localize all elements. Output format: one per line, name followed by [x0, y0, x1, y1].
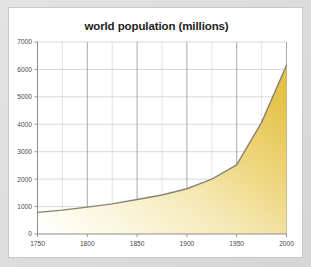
- chart-card: world population (millions): [8, 7, 303, 258]
- svg-text:1750: 1750: [30, 240, 45, 247]
- svg-text:3000: 3000: [17, 148, 32, 155]
- svg-text:2000: 2000: [279, 240, 294, 247]
- svg-text:1850: 1850: [130, 240, 145, 247]
- svg-text:1950: 1950: [229, 240, 244, 247]
- x-axis-tick-labels: 175018001850190019502000: [30, 240, 294, 247]
- svg-text:1900: 1900: [180, 240, 195, 247]
- svg-text:1000: 1000: [17, 203, 32, 210]
- svg-text:5000: 5000: [17, 93, 32, 100]
- y-axis-tick-labels: 01000200030004000500060007000: [17, 38, 32, 237]
- svg-text:0: 0: [28, 230, 32, 237]
- svg-text:1800: 1800: [80, 240, 95, 247]
- svg-text:2000: 2000: [17, 176, 32, 183]
- svg-text:4000: 4000: [17, 121, 32, 128]
- svg-text:6000: 6000: [17, 66, 32, 73]
- outer-frame: world population (millions): [0, 0, 311, 267]
- svg-text:7000: 7000: [17, 38, 32, 45]
- chart-svg: 01000200030004000500060007000 1750180018…: [9, 8, 304, 259]
- chart-plot-area: 01000200030004000500060007000 1750180018…: [9, 8, 304, 259]
